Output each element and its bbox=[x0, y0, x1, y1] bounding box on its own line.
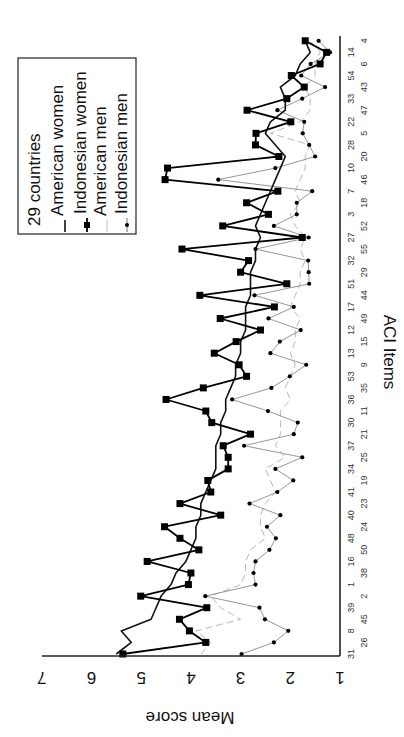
dot-marker bbox=[216, 178, 220, 182]
square-marker bbox=[144, 558, 151, 565]
dot-marker bbox=[286, 629, 290, 633]
x-tick-label: 54 bbox=[346, 70, 356, 80]
legend-item-american-women: American women bbox=[48, 85, 67, 232]
x-tick-label: 28 bbox=[346, 140, 356, 150]
x-tick-label: 31 bbox=[346, 649, 356, 659]
x-tick-label: 39 bbox=[346, 603, 356, 613]
x-tick-label: 43 bbox=[359, 82, 369, 92]
dot-marker bbox=[313, 154, 317, 158]
x-tick-label: 41 bbox=[346, 487, 356, 497]
x-tick-label: 33 bbox=[346, 94, 356, 104]
square-marker bbox=[202, 639, 209, 646]
square-marker bbox=[253, 130, 260, 137]
square-marker bbox=[243, 199, 250, 206]
square-marker bbox=[257, 327, 264, 334]
legend: 29 countries American women Indonesian w… bbox=[18, 58, 136, 234]
series-line bbox=[123, 41, 327, 654]
x-tick-label: 22 bbox=[346, 117, 356, 127]
square-marker bbox=[301, 84, 308, 91]
x-tick-label: 21 bbox=[359, 429, 369, 439]
square-marker bbox=[225, 454, 232, 461]
x-tick-label: 44 bbox=[359, 290, 369, 300]
x-tick-label: 55 bbox=[359, 244, 369, 254]
x-tick-label: 35 bbox=[359, 383, 369, 393]
dot-marker bbox=[307, 270, 311, 274]
square-marker bbox=[247, 431, 254, 438]
x-tick-label: 5 bbox=[359, 131, 369, 136]
x-tick-label: 26 bbox=[359, 637, 369, 647]
series-layer bbox=[116, 37, 332, 657]
dot-marker bbox=[323, 85, 327, 89]
square-marker bbox=[176, 500, 183, 507]
dot-marker bbox=[295, 201, 299, 205]
legend-label: American women bbox=[48, 85, 67, 216]
square-marker bbox=[274, 188, 281, 195]
square-marker bbox=[243, 373, 250, 380]
x-tick-label: 20 bbox=[359, 151, 369, 161]
dot-marker bbox=[272, 640, 276, 644]
dot-marker bbox=[269, 386, 273, 390]
x-tick-label: 34 bbox=[346, 464, 356, 474]
series-indonesian-women bbox=[119, 37, 330, 657]
dot-marker bbox=[295, 212, 299, 216]
dot-marker bbox=[288, 374, 292, 378]
x-tick-label: 48 bbox=[346, 533, 356, 543]
square-marker bbox=[203, 604, 210, 611]
dot-marker bbox=[242, 444, 246, 448]
square-marker bbox=[302, 37, 309, 44]
x-tick-label: 18 bbox=[359, 198, 369, 208]
dot-marker bbox=[302, 120, 306, 124]
x-tick-label: 53 bbox=[346, 371, 356, 381]
dot-marker bbox=[301, 131, 305, 135]
x-tick-label: 49 bbox=[359, 313, 369, 323]
legend-item-indonesian-men: Indonesian men bbox=[112, 93, 131, 232]
x-tick-label: 27 bbox=[346, 232, 356, 242]
dot-marker bbox=[291, 478, 295, 482]
x-tick-label: 10 bbox=[346, 163, 356, 173]
legend-item-american-men: American men bbox=[91, 106, 110, 232]
square-marker bbox=[162, 176, 169, 183]
series-indonesian-men bbox=[203, 39, 332, 656]
x-tick-label: 11 bbox=[359, 406, 369, 415]
rotated-line-chart: 3126845392138165048244023411934253721301… bbox=[0, 0, 404, 737]
y-tick-labels: 1234567 bbox=[37, 668, 345, 687]
x-tick-label: 30 bbox=[346, 418, 356, 428]
dot-marker bbox=[292, 305, 296, 309]
dot-marker bbox=[275, 108, 279, 112]
square-marker bbox=[233, 338, 240, 345]
dot-marker bbox=[252, 293, 256, 297]
square-marker bbox=[220, 442, 227, 449]
y-axis-title: Mean score bbox=[146, 708, 235, 727]
dot-marker bbox=[273, 166, 277, 170]
dot-marker bbox=[275, 490, 279, 494]
y-tick-label: 7 bbox=[37, 668, 46, 687]
dot-marker bbox=[307, 282, 311, 286]
square-marker bbox=[252, 141, 259, 148]
square-marker bbox=[187, 570, 194, 577]
x-tick-label: 25 bbox=[359, 452, 369, 462]
x-tick-label: 36 bbox=[346, 394, 356, 404]
square-marker bbox=[237, 269, 244, 276]
square-marker bbox=[186, 627, 193, 634]
x-tick-label: 9 bbox=[359, 362, 369, 367]
square-marker bbox=[195, 546, 202, 553]
square-marker bbox=[288, 72, 295, 79]
dot-marker bbox=[306, 259, 310, 263]
y-tick-label: 1 bbox=[335, 668, 344, 687]
square-marker bbox=[208, 419, 215, 426]
square-marker bbox=[176, 616, 183, 623]
dot-marker bbox=[300, 97, 304, 101]
x-axis-title: ACI Items bbox=[380, 315, 399, 390]
x-tick-label: 38 bbox=[359, 568, 369, 578]
x-tick-label: 24 bbox=[359, 522, 369, 532]
x-tick-label: 40 bbox=[346, 510, 356, 520]
x-tick-label: 3 bbox=[346, 212, 356, 217]
x-tick-label: 51 bbox=[346, 279, 356, 289]
square-marker bbox=[225, 465, 232, 472]
x-tick-label: 1 bbox=[346, 582, 356, 587]
square-marker bbox=[245, 257, 252, 264]
legend-label: Indonesian men bbox=[112, 93, 131, 214]
square-marker bbox=[207, 489, 214, 496]
dot-marker bbox=[274, 536, 278, 540]
square-marker bbox=[219, 222, 226, 229]
